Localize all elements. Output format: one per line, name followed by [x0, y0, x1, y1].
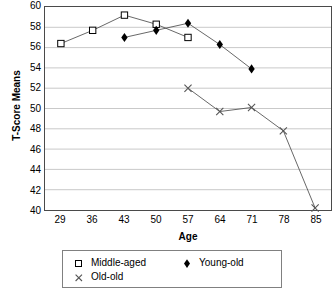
y-tick-label: 56 [1, 42, 41, 52]
y-tick-label: 52 [1, 83, 41, 93]
y-tick-label: 44 [1, 165, 41, 175]
x-tick-label: 29 [45, 214, 75, 226]
y-tick-label: 46 [1, 145, 41, 155]
cross-x-marker [280, 127, 287, 134]
x-axis-title: Age [44, 231, 332, 242]
x-tick-label: 36 [77, 214, 107, 226]
chart-legend: Middle-aged Old-old Young-old [62, 250, 282, 288]
filled-diamond-marker [217, 40, 223, 49]
legend-label-young-old: Young-old [199, 257, 244, 269]
x-tick-label: 85 [301, 214, 331, 226]
series-line [124, 23, 251, 69]
open-square-marker [89, 27, 95, 33]
x-tick-label: 43 [109, 214, 139, 226]
series-line [188, 88, 315, 208]
cross-x-marker [312, 204, 319, 211]
open-square-marker [121, 12, 127, 18]
y-tick-label: 40 [1, 206, 41, 216]
filled-diamond-marker [185, 19, 191, 28]
filled-diamond-icon [181, 257, 193, 269]
cross-x-icon [73, 271, 85, 283]
filled-diamond-marker [121, 33, 127, 42]
x-axis-tick-labels: 293643505764717885 [44, 214, 332, 228]
y-tick-label: 42 [1, 186, 41, 196]
cross-x-marker [184, 85, 191, 92]
x-tick-label: 50 [141, 214, 171, 226]
y-tick-label: 54 [1, 63, 41, 73]
filled-diamond-marker [248, 64, 254, 73]
plot-area [44, 6, 332, 211]
open-square-icon [73, 257, 85, 269]
x-tick-label: 71 [237, 214, 267, 226]
x-tick-label: 57 [173, 214, 203, 226]
open-square-marker [58, 40, 64, 46]
x-tick-label: 64 [205, 214, 235, 226]
y-axis-tick-labels: 6058565452504846444240 [0, 6, 41, 211]
data-series-layer [45, 7, 331, 210]
y-tick-label: 48 [1, 124, 41, 134]
y-tick-label: 50 [1, 104, 41, 114]
series-old-old [184, 85, 318, 212]
x-tick-label: 78 [269, 214, 299, 226]
y-tick-label: 58 [1, 22, 41, 32]
legend-label-middle-aged: Middle-aged [91, 257, 146, 269]
y-tick-label: 60 [1, 1, 41, 11]
open-square-marker [185, 34, 191, 40]
series-young-old [121, 19, 254, 74]
legend-label-old-old: Old-old [91, 271, 123, 283]
chart-figure: T-Score Means 6058565452504846444240 293… [0, 0, 336, 293]
